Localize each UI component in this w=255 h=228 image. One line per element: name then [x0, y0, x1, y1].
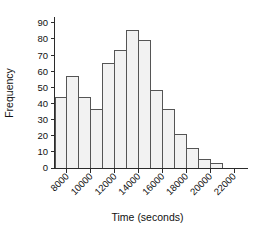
y-tick-label: 90: [37, 17, 48, 28]
x-tick-label: 16000: [140, 171, 166, 197]
x-tick-label: 8000: [48, 171, 71, 194]
bars-group: [55, 31, 222, 168]
x-tick-label: 14000: [116, 171, 142, 197]
histogram-bar: [55, 97, 67, 168]
histogram-plot: 0102030405060708090800010000120001400016…: [0, 0, 255, 228]
y-tick-label: 20: [37, 130, 48, 141]
y-tick-label: 80: [37, 33, 48, 44]
y-tick-label: 60: [37, 66, 48, 77]
histogram-bar: [150, 91, 162, 168]
x-ticks-group: 800010000120001400016000180002000022000: [48, 169, 238, 198]
histogram-bar: [127, 31, 139, 168]
histogram-bar: [186, 149, 198, 168]
histogram-bar: [103, 63, 115, 168]
histogram-bar: [210, 163, 222, 168]
histogram-bar: [79, 97, 91, 168]
y-tick-label: 50: [37, 82, 48, 93]
y-tick-label: 30: [37, 114, 48, 125]
histogram-bar: [115, 50, 127, 168]
histogram-bar: [67, 76, 79, 168]
x-tick-label: 18000: [164, 171, 190, 197]
y-axis-title: Frequency: [3, 67, 15, 117]
y-tick-label: 40: [37, 98, 48, 109]
x-tick-label: 22000: [211, 171, 237, 197]
y-ticks-group: 0102030405060708090: [37, 17, 54, 173]
histogram-bar: [139, 41, 151, 168]
x-tick-label: 20000: [188, 171, 214, 197]
histogram-bar: [174, 134, 186, 168]
histogram-bar: [91, 110, 103, 168]
y-tick-label: 10: [37, 146, 48, 157]
x-axis-title: Time (seconds): [112, 211, 184, 223]
histogram-bar: [198, 160, 210, 168]
histogram-figure: 0102030405060708090800010000120001400016…: [0, 0, 255, 228]
y-tick-label: 0: [43, 162, 48, 173]
y-tick-label: 70: [37, 50, 48, 61]
x-tick-label: 10000: [68, 171, 94, 197]
histogram-bar: [162, 110, 174, 168]
x-tick-label: 12000: [92, 171, 118, 197]
